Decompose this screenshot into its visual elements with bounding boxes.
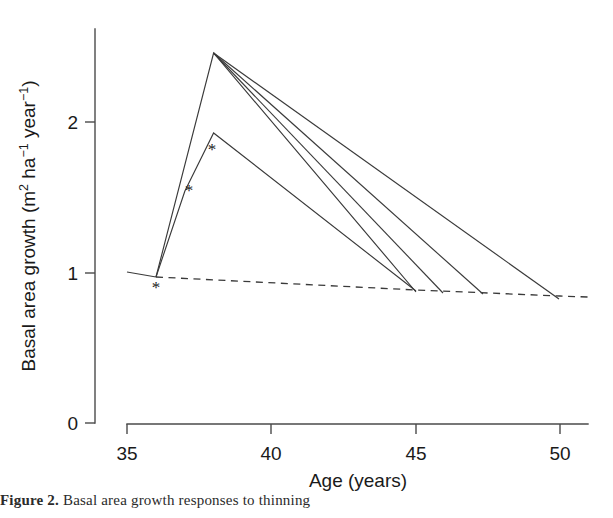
figure-caption: Figure 2. Basal area growth responses to… xyxy=(0,492,613,509)
y-axis-title: Basal area growth (m2 ha−1 year−1) xyxy=(17,80,39,371)
y-tick-label-2: 2 xyxy=(67,112,78,133)
significance-star-3: * xyxy=(208,140,217,159)
thinning-response-line-1 xyxy=(156,53,416,292)
x-tick-label-35: 35 xyxy=(116,443,137,464)
y-axis-title-sup-ha: −1 xyxy=(17,143,31,157)
figure-caption-prefix: Figure 2. xyxy=(0,492,59,508)
thinning-response-line-3 xyxy=(214,53,483,294)
control-reference-dashed-line xyxy=(156,277,588,297)
x-axis-title: Age (years) xyxy=(309,470,407,491)
significance-star-2: * xyxy=(185,181,194,200)
significance-star-1: * xyxy=(152,278,161,297)
x-axis: 35 40 45 50 xyxy=(116,424,588,464)
y-axis-title-sup-area: 2 xyxy=(17,184,31,191)
basal-area-growth-chart: 0 1 2 35 40 45 50 * * * xyxy=(0,0,613,518)
x-tick-label-45: 45 xyxy=(405,443,426,464)
y-axis-title-mid: ha xyxy=(18,157,39,184)
y-axis-title-pre: Basal area growth (m xyxy=(18,191,39,372)
y-tick-label-1: 1 xyxy=(67,263,78,284)
y-axis-title-mid2: year xyxy=(18,100,39,143)
figure-container: 0 1 2 35 40 45 50 * * * xyxy=(0,0,613,518)
x-tick-label-40: 40 xyxy=(260,443,281,464)
light-thinning-response-line xyxy=(156,133,416,291)
thinning-response-line-4 xyxy=(214,53,559,299)
y-axis: 0 1 2 xyxy=(67,29,95,434)
y-axis-title-sup-year: −1 xyxy=(17,87,31,101)
x-tick-label-50: 50 xyxy=(549,443,570,464)
thinning-response-line-2 xyxy=(214,53,443,293)
figure-caption-rest: Basal area growth responses to thinning xyxy=(59,492,310,508)
y-tick-label-0: 0 xyxy=(67,413,78,434)
baseline-lead-in-line xyxy=(127,272,156,277)
y-axis-title-post: ) xyxy=(18,80,39,86)
y-axis-title-group: Basal area growth (m2 ha−1 year−1) xyxy=(17,80,39,371)
